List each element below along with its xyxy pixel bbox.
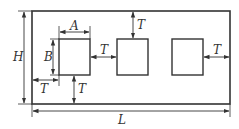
- spacing-left-dimension: T: [33, 75, 59, 96]
- height-label: H: [12, 50, 24, 64]
- cutout-3: [172, 39, 203, 75]
- spacing-between-label: T: [100, 43, 109, 57]
- plate-outline: [32, 11, 230, 104]
- spacing-left-label: T: [40, 82, 49, 96]
- spacing-bottom-label: T: [78, 82, 87, 96]
- length-dimension: L: [32, 104, 230, 127]
- spacing-top-label: T: [137, 18, 146, 32]
- spacing-right-dimension: T: [204, 43, 229, 57]
- cutout-1: [59, 39, 90, 75]
- width-a-label: A: [69, 19, 79, 33]
- height-b-dimension: B: [43, 39, 59, 75]
- spacing-between-dimension: T: [91, 43, 116, 57]
- spacing-right-label: T: [213, 43, 222, 57]
- cutout-2: [117, 39, 148, 75]
- spacing-top-dimension: T: [133, 12, 146, 38]
- length-label: L: [117, 113, 126, 127]
- height-dimension: H: [12, 11, 32, 104]
- spacing-bottom-dimension: T: [74, 76, 87, 103]
- width-a-dimension: A: [59, 19, 90, 39]
- height-b-label: B: [43, 50, 53, 64]
- plate-diagram: H L A B T T T T: [0, 0, 239, 129]
